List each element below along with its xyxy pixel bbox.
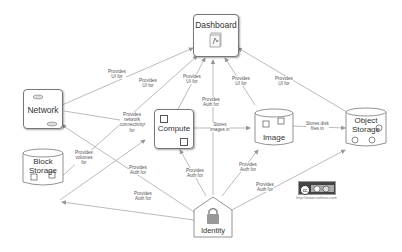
edge-label: Providesvolumesfor [75,150,93,166]
compute-label: Compute [155,124,193,133]
edge-label: ProvidesAuth for [186,168,204,178]
cc-license-badge: cc [298,181,336,195]
cylinder-shape [254,108,294,148]
svg-text:cc: cc [303,188,308,193]
edge-label: ProvidesUI for [108,69,126,79]
image-label: Image [254,133,294,142]
vm-icon [180,138,188,146]
block-storage-node: Block Storage [22,148,64,188]
network-cloud-icon [32,94,44,100]
network-label: Network [24,105,62,115]
object-storage-node: Object Storage [345,107,387,149]
object-storage-label-2: Storage [345,125,387,134]
network-node: Network [23,89,63,129]
object-storage-label-1: Object [345,116,387,125]
block-storage-label-2: Storage [22,166,64,175]
dashboard-label: Dashboard [194,20,238,30]
edge-label: ProvidesUI for [232,76,250,86]
license-url[interactable]: http://www.solinea.com [296,195,337,200]
edge-label: ProvidesAuth for [134,191,152,201]
edge-label: ProvidesUI for [139,78,157,88]
dashboard-node: Dashboard [193,14,239,57]
block-storage-label-1: Block [22,157,64,166]
edge-label: ProvidesUI for [183,74,201,84]
edge-label: Stores diskfiles in [306,121,329,131]
compute-node: Compute [154,109,194,149]
edge-label: ProvidesAuth for [202,97,220,107]
image-node: Image [254,108,294,148]
edge-label: ProvidesUI for [275,76,293,86]
edge-label: Storesimages in [210,122,230,132]
vm-icon [160,115,168,123]
dashboard-icon [209,32,223,48]
edge-label: ProvidesAuth for [256,182,274,192]
identity-label: Identity [193,226,233,235]
edge-label: ProvidesAuth for [239,162,257,172]
edge-label: ProvidesAuth for [129,165,147,175]
edge-label: Providesnetworkconnectivityfor [120,112,144,133]
identity-node: Identity [193,196,233,239]
network-cloud-icon [46,121,58,127]
